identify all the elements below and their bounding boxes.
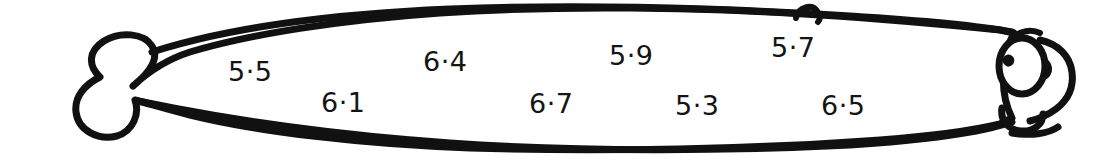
worksheet-canvas: 5·5 6·1 6·4 6·7 5·9 5·3 5·7 6·5 [0,0,1111,163]
measurement-label: 5·5 [228,58,272,85]
measurement-label: 6·4 [423,48,467,75]
measurement-label: 6·1 [321,89,365,116]
measurement-label: 5·3 [675,92,719,119]
measurement-label: 6·5 [821,92,865,119]
eyebrow-icon [1018,31,1040,34]
measurement-label: 6·7 [529,90,573,117]
fish-body-outline [76,8,1014,150]
measurement-label: 5·7 [771,34,815,61]
measurement-label: 5·9 [609,42,653,69]
fish-drawing [0,0,1111,163]
nostril-line [1046,62,1049,76]
pupil-icon [1004,56,1013,65]
